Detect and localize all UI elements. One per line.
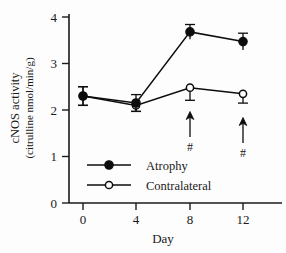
y-axis-ticks [62, 17, 69, 203]
annotation-day8: # [186, 112, 194, 155]
x-tick-label-4: 4 [133, 212, 140, 227]
x-tick-label-8: 8 [187, 212, 194, 227]
annotation-hash-day8: # [187, 140, 193, 154]
legend-label-atrophy: Atrophy [146, 159, 188, 173]
atrophy-point-day8 [186, 28, 194, 36]
legend-marker-open-circle-icon [105, 181, 112, 188]
annotation-day12: # [239, 118, 247, 161]
x-axis-title: Day [152, 231, 174, 246]
y-tick-label-0: 0 [51, 196, 58, 211]
legend-item-contralateral: Contralateral [87, 179, 212, 193]
cnos-activity-line-chart: 0 1 2 3 4 0 4 8 12 Day cNOS activity (ci… [0, 0, 286, 253]
x-tick-label-12: 12 [237, 212, 250, 227]
legend-item-atrophy: Atrophy [87, 159, 188, 173]
y-tick-label-3: 3 [51, 56, 58, 71]
y-tick-label-1: 1 [51, 149, 58, 164]
contralateral-point-day12 [239, 90, 246, 97]
legend-label-contralateral: Contralateral [146, 179, 212, 193]
atrophy-point-day12 [239, 37, 247, 45]
x-tick-label-0: 0 [80, 212, 87, 227]
chart-figure: 0 1 2 3 4 0 4 8 12 Day cNOS activity (ci… [0, 0, 286, 253]
y-tick-label-4: 4 [51, 10, 58, 25]
atrophy-point-day0 [79, 92, 87, 100]
y-axis-title-line1: cNOS activity [8, 72, 22, 144]
atrophy-line [83, 32, 243, 103]
series-contralateral [78, 84, 248, 111]
annotation-hash-day12: # [240, 146, 246, 160]
contralateral-point-day8 [186, 84, 193, 91]
chart-legend: Atrophy Contralateral [87, 159, 212, 193]
atrophy-point-day4 [132, 99, 140, 107]
series-atrophy [78, 25, 248, 112]
y-tick-label-2: 2 [51, 103, 58, 118]
legend-marker-filled-circle-icon [105, 161, 113, 169]
x-axis-ticks [83, 203, 243, 210]
contralateral-line [83, 88, 243, 106]
y-axis-title-line2: (citrulline nmol/min/g) [23, 57, 36, 158]
